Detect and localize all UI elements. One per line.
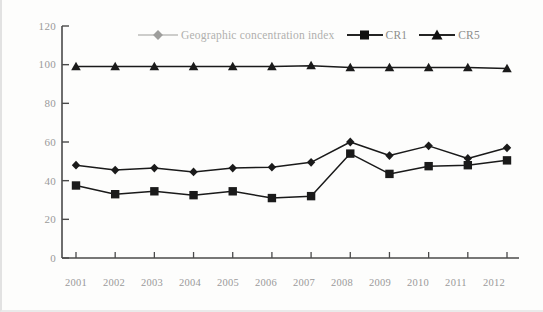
data-point xyxy=(307,158,315,167)
data-point xyxy=(229,164,237,173)
axis-layer xyxy=(62,26,519,258)
data-point xyxy=(503,156,511,164)
data-point xyxy=(150,164,158,173)
data-point xyxy=(229,187,237,195)
series-geographic-concentration-index xyxy=(72,138,511,177)
data-point xyxy=(189,191,197,199)
data-point xyxy=(268,163,276,172)
data-point xyxy=(268,194,276,202)
data-point xyxy=(72,181,80,189)
data-point xyxy=(189,168,197,177)
data-point xyxy=(464,161,472,169)
y-axis-ticks xyxy=(62,26,69,258)
plot-area xyxy=(0,0,543,312)
chart-figure: 120 100 80 60 40 20 0 2001 2002 2003 200… xyxy=(0,0,543,312)
data-point xyxy=(385,151,393,160)
data-point xyxy=(424,162,432,170)
data-point xyxy=(307,192,315,200)
data-point xyxy=(424,141,432,150)
series-cr5 xyxy=(71,61,512,72)
series-layer xyxy=(71,61,512,202)
data-point xyxy=(72,161,80,170)
data-point xyxy=(385,170,393,178)
series-cr1 xyxy=(72,149,511,202)
x-axis-ticks xyxy=(76,252,507,258)
data-point xyxy=(346,138,354,147)
data-point xyxy=(150,187,158,195)
data-point xyxy=(503,143,511,152)
data-point xyxy=(111,190,119,198)
data-point xyxy=(111,166,119,175)
data-point xyxy=(346,149,354,157)
